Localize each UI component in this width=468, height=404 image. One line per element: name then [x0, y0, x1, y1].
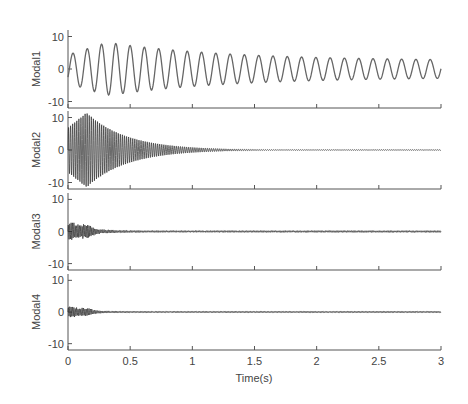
y-tick-label: -10: [48, 96, 64, 108]
signal-trace-modal1: [68, 44, 441, 95]
x-tick-label: 0.5: [123, 355, 138, 367]
x-tick-label: 1: [189, 355, 195, 367]
subplot-group: 100-10Modal1100-10Modal2100-10Modal3100-…: [30, 30, 444, 367]
modal-figure: 100-10Modal1100-10Modal2100-10Modal3100-…: [0, 0, 468, 404]
x-tick-label: 1.5: [247, 355, 262, 367]
y-tick-label: 0: [58, 306, 64, 318]
y-tick-label: 10: [52, 274, 64, 286]
subplot-modal1: 100-10Modal1: [30, 30, 441, 108]
x-axis-label: Time(s): [236, 372, 273, 384]
y-tick-label: 10: [52, 112, 64, 124]
y-tick-label: 0: [58, 63, 64, 75]
y-axis-label: Modal2: [30, 132, 42, 168]
subplot-modal4: 100-10Modal4: [30, 274, 441, 350]
y-tick-label: 0: [58, 226, 64, 238]
subplot-modal2: 100-10Modal2: [30, 111, 441, 189]
signal-trace-modal4: [68, 307, 441, 317]
x-tick-label: 2: [314, 355, 320, 367]
y-tick-label: -10: [48, 258, 64, 270]
y-tick-label: -10: [48, 177, 64, 189]
y-tick-label: -10: [48, 338, 64, 350]
y-axis-label: Modal1: [30, 51, 42, 87]
subplot-modal3: 100-10Modal3: [30, 193, 441, 270]
x-tick-label: 3: [438, 355, 444, 367]
signal-trace-modal3: [68, 223, 441, 240]
y-axis-label: Modal4: [30, 294, 42, 330]
x-tick-label: 2.5: [371, 355, 386, 367]
y-tick-label: 10: [52, 193, 64, 205]
x-tick-label: 0: [65, 355, 71, 367]
y-axis-label: Modal3: [30, 213, 42, 249]
y-tick-label: 10: [52, 31, 64, 43]
y-tick-label: 0: [58, 144, 64, 156]
signal-trace-modal2: [68, 114, 441, 187]
